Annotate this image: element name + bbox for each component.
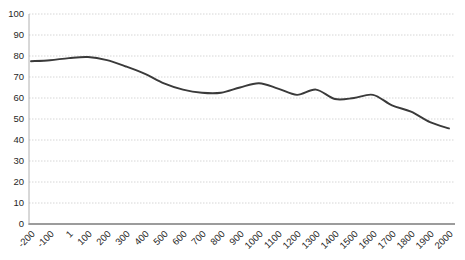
- x-tick-label: 1500: [337, 228, 360, 251]
- y-tick-label: 80: [13, 50, 24, 61]
- line-chart-svg: 0102030405060708090100-200-1001100200300…: [0, 0, 465, 260]
- line-chart: 0102030405060708090100-200-1001100200300…: [0, 0, 465, 260]
- x-tick-label: 1600: [356, 228, 379, 251]
- x-tick-label: -200: [16, 228, 37, 249]
- y-tick-label: 100: [8, 8, 24, 19]
- y-tick-label: 0: [19, 218, 24, 229]
- x-tick-label: 200: [94, 228, 113, 247]
- y-tick-label: 10: [13, 197, 24, 208]
- x-tick-label: 1100: [262, 228, 284, 250]
- x-tick-label: 600: [170, 228, 189, 247]
- y-tick-label: 20: [13, 176, 24, 187]
- y-tick-label: 50: [13, 113, 24, 124]
- x-tick-label: 1400: [318, 228, 341, 251]
- x-tick-label: 400: [132, 228, 151, 247]
- x-tick-label: 100: [75, 228, 94, 247]
- x-tick-label: -100: [35, 228, 56, 249]
- x-tick-label: 500: [151, 228, 170, 247]
- y-tick-label: 70: [13, 71, 24, 82]
- x-tick-label: 1800: [394, 228, 417, 251]
- y-tick-label: 60: [13, 92, 24, 103]
- x-tick-label: 1900: [413, 228, 436, 251]
- x-tick-label: 2000: [432, 228, 455, 251]
- x-tick-label: 1200: [280, 228, 303, 251]
- x-tick-label: 700: [189, 228, 208, 247]
- x-tick-label: 800: [208, 228, 227, 247]
- x-tick-label: 1000: [242, 228, 265, 251]
- x-tick-label: 1300: [299, 228, 322, 251]
- x-tick-label: 1700: [375, 228, 398, 251]
- data-series-line: [31, 57, 449, 128]
- x-tick-label: 1: [63, 228, 75, 240]
- y-tick-label: 90: [13, 29, 24, 40]
- y-tick-label: 40: [13, 134, 24, 145]
- y-tick-label: 30: [13, 155, 24, 166]
- x-tick-label: 300: [113, 228, 132, 247]
